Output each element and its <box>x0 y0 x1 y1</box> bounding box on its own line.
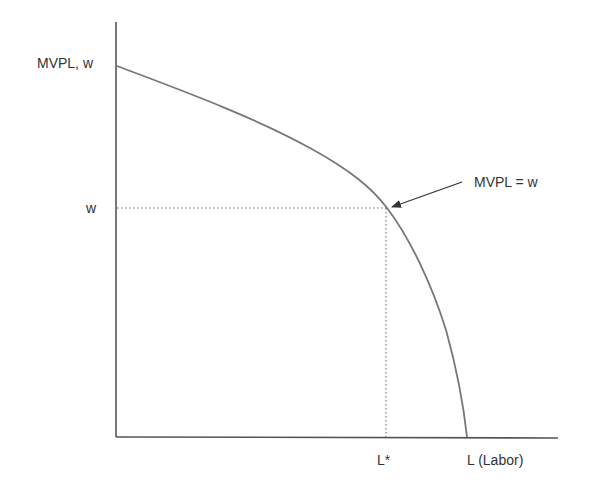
annotation-label: MVPL = w <box>474 174 539 190</box>
lstar-tick-label: L* <box>377 452 391 468</box>
x-axis <box>116 437 558 438</box>
mvpl-chart: MVPL, w w MVPL = w L* L (Labor) <box>0 0 592 494</box>
x-axis-label: L (Labor) <box>467 452 523 468</box>
annotation-arrow <box>392 182 462 207</box>
w-tick-label: w <box>85 200 97 216</box>
mvpl-curve <box>117 66 467 437</box>
y-axis-label: MVPL, w <box>37 55 94 71</box>
